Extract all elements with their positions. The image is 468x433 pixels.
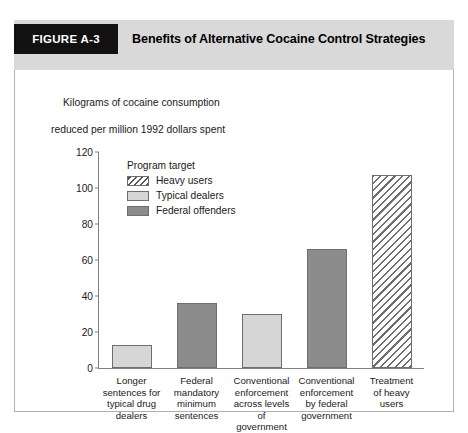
figure-container: FIGURE A-3 Benefits of Alternative Cocai…: [14, 20, 454, 412]
y-axis-tick-label: 100: [76, 183, 93, 194]
legend-swatch-dark-icon: [127, 206, 149, 216]
bar: [112, 345, 152, 368]
y-axis-tick-mark: [95, 224, 99, 225]
x-axis-category-label: Conventional enforcement across levels o…: [231, 375, 292, 433]
legend-label: Federal offenders: [156, 205, 236, 217]
x-axis-category-label: Federal mandatory minimum sentences: [166, 375, 227, 421]
legend-swatch-hatch-icon: [127, 176, 149, 186]
legend-label: Heavy users: [156, 175, 213, 187]
legend-title: Program target: [127, 160, 236, 172]
bar: [307, 249, 347, 368]
legend-item-heavy-users: Heavy users: [127, 174, 236, 188]
bar: [372, 175, 412, 368]
x-axis-category-label: Longer sentences for typical drug dealer…: [101, 375, 162, 421]
y-axis-tick-label: 60: [82, 255, 93, 266]
y-axis-tick-mark: [95, 152, 99, 153]
y-axis-tick-mark: [95, 260, 99, 261]
bar: [177, 303, 217, 368]
y-axis-tick-mark: [95, 188, 99, 189]
legend-item-federal-offenders: Federal offenders: [127, 204, 236, 218]
figure-header-band: FIGURE A-3 Benefits of Alternative Cocai…: [14, 20, 454, 70]
figure-title: Benefits of Alternative Cocaine Control …: [132, 24, 425, 54]
y-axis-tick-mark: [95, 296, 99, 297]
y-axis-tick-label: 20: [82, 327, 93, 338]
figure-number-tag: FIGURE A-3: [14, 24, 118, 54]
legend-label: Typical dealers: [156, 190, 224, 202]
y-axis-tick-label: 40: [82, 291, 93, 302]
y-axis-tick-label: 0: [87, 363, 93, 374]
legend-item-typical-dealers: Typical dealers: [127, 189, 236, 203]
x-axis-category-label: Treatment of heavy users: [361, 375, 422, 410]
y-axis-tick-mark: [95, 332, 99, 333]
bar: [242, 314, 282, 368]
y-axis-tick-label: 120: [76, 147, 93, 158]
legend-swatch-light-icon: [127, 191, 149, 201]
x-axis-category-label: Conventional enforcement by federal gove…: [296, 375, 357, 421]
plot-wrapper: 020406080100120Longer sentences for typi…: [15, 70, 455, 412]
chart-legend: Program target Heavy users Typical deale…: [127, 160, 236, 219]
y-axis-tick-label: 80: [82, 219, 93, 230]
chart-panel: Kilograms of cocaine consumption reduced…: [14, 70, 454, 412]
y-axis-tick-mark: [95, 368, 99, 369]
